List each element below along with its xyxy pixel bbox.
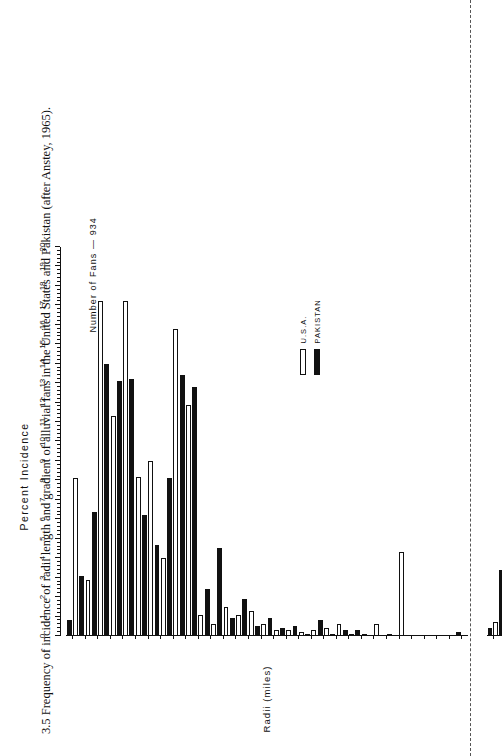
axis-tick-major	[55, 577, 60, 578]
axis-tick-minor	[57, 398, 60, 399]
axis-tick-major	[55, 324, 60, 325]
x-axis-tick-label: 2	[38, 595, 47, 599]
bar-pakistan	[217, 548, 222, 636]
axis-tick-minor	[57, 511, 60, 512]
category-axis-tick	[97, 636, 98, 639]
bar-pakistan	[330, 634, 335, 636]
x-axis-tick-label: 17	[38, 301, 47, 310]
bar-pakistan	[255, 626, 260, 636]
axis-tick-minor	[57, 312, 60, 313]
axis-tick-minor	[57, 464, 60, 465]
axis-tick-minor	[57, 534, 60, 535]
axis-tick-minor	[57, 542, 60, 543]
bar-usa	[198, 615, 203, 636]
bar-usa	[349, 634, 354, 636]
axis-tick-minor	[57, 425, 60, 426]
axis-tick-major	[55, 304, 60, 305]
bar-usa	[299, 632, 304, 636]
axis-tick-major	[55, 441, 60, 442]
axis-tick-major	[55, 616, 60, 617]
bar-pakistan	[293, 626, 298, 636]
axis-tick-minor	[57, 456, 60, 457]
bar-usa	[362, 634, 367, 636]
axis-tick-minor	[57, 390, 60, 391]
axis-tick-major	[55, 363, 60, 364]
category-axis-tick	[85, 636, 86, 639]
bar-pakistan	[104, 364, 109, 636]
axis-tick-major	[55, 343, 60, 344]
axis-tick-minor	[57, 258, 60, 259]
axis-tick-minor	[57, 507, 60, 508]
axis-tick-minor	[57, 277, 60, 278]
bar-usa	[211, 624, 216, 636]
axis-tick-minor	[57, 413, 60, 414]
axis-tick-minor	[57, 289, 60, 290]
x-axis-tick-label: 15	[38, 340, 47, 349]
axis-tick-minor	[57, 522, 60, 523]
category-axis-tick	[411, 636, 412, 639]
bar-usa	[324, 628, 329, 636]
bar-usa	[186, 405, 191, 636]
bar-pakistan	[242, 599, 247, 636]
axis-tick-major	[55, 265, 60, 266]
axis-tick-minor	[57, 328, 60, 329]
x-axis-tick-label: 8	[38, 478, 47, 482]
category-axis-tick	[173, 636, 174, 639]
axis-tick-minor	[57, 320, 60, 321]
category-axis-tick	[361, 636, 362, 639]
category-axis-tick	[386, 636, 387, 639]
axis-tick-minor	[57, 250, 60, 251]
axis-tick-minor	[57, 549, 60, 550]
number-of-fans-annotation: Number of Fans — 934	[88, 217, 98, 333]
axis-tick-minor	[57, 608, 60, 609]
bar-pakistan	[79, 576, 84, 636]
bar-pakistan	[280, 628, 285, 636]
bar-pakistan	[488, 628, 492, 636]
x-axis-tick-label: 12	[38, 398, 47, 407]
axis-tick-minor	[57, 472, 60, 473]
x-axis-tick-label: 18	[38, 281, 47, 290]
bar-usa	[86, 580, 91, 636]
category-axis-tick	[449, 636, 450, 639]
legend-label: U.S.A.	[299, 316, 308, 344]
bar-usa	[224, 607, 229, 636]
category-axis-tick	[122, 636, 123, 639]
category-axis-tick	[424, 636, 425, 639]
category-axis-tick	[493, 636, 494, 639]
category-axis-tick	[210, 636, 211, 639]
x-axis-tick-label: 19	[38, 262, 47, 271]
axis-tick-minor	[57, 359, 60, 360]
axis-tick-minor	[57, 437, 60, 438]
bar-usa	[261, 624, 266, 636]
category-axis-tick	[185, 636, 186, 639]
axis-tick-minor	[57, 631, 60, 632]
bar-usa	[311, 630, 316, 636]
axis-tick-minor	[57, 546, 60, 547]
category-axis-tick	[135, 636, 136, 639]
bar-pakistan	[129, 379, 134, 636]
x-axis-tick-label: 20	[38, 243, 47, 252]
white-bar-swatch	[300, 349, 306, 375]
axis-tick-minor	[57, 452, 60, 453]
axis-tick-major	[55, 635, 60, 636]
x-axis-tick-label: 0	[38, 634, 47, 638]
category-axis-tick	[373, 636, 374, 639]
axis-tick-minor	[57, 308, 60, 309]
bar-pakistan	[355, 630, 360, 636]
category-axis-tick	[348, 636, 349, 639]
bar-usa	[337, 624, 342, 636]
axis-tick-minor	[57, 604, 60, 605]
bar-usa	[161, 558, 166, 636]
axis-tick-minor	[57, 565, 60, 566]
axis-tick-major	[55, 538, 60, 539]
axis-tick-major	[55, 285, 60, 286]
axis-tick-major	[55, 382, 60, 383]
axis-tick-minor	[57, 339, 60, 340]
bar-usa	[374, 624, 379, 636]
bar-usa	[136, 477, 141, 636]
x-axis-tick-label: 14	[38, 359, 47, 368]
axis-tick-minor	[57, 503, 60, 504]
bar-pakistan	[205, 589, 210, 636]
bar-pakistan	[343, 630, 348, 636]
axis-tick-minor	[57, 530, 60, 531]
